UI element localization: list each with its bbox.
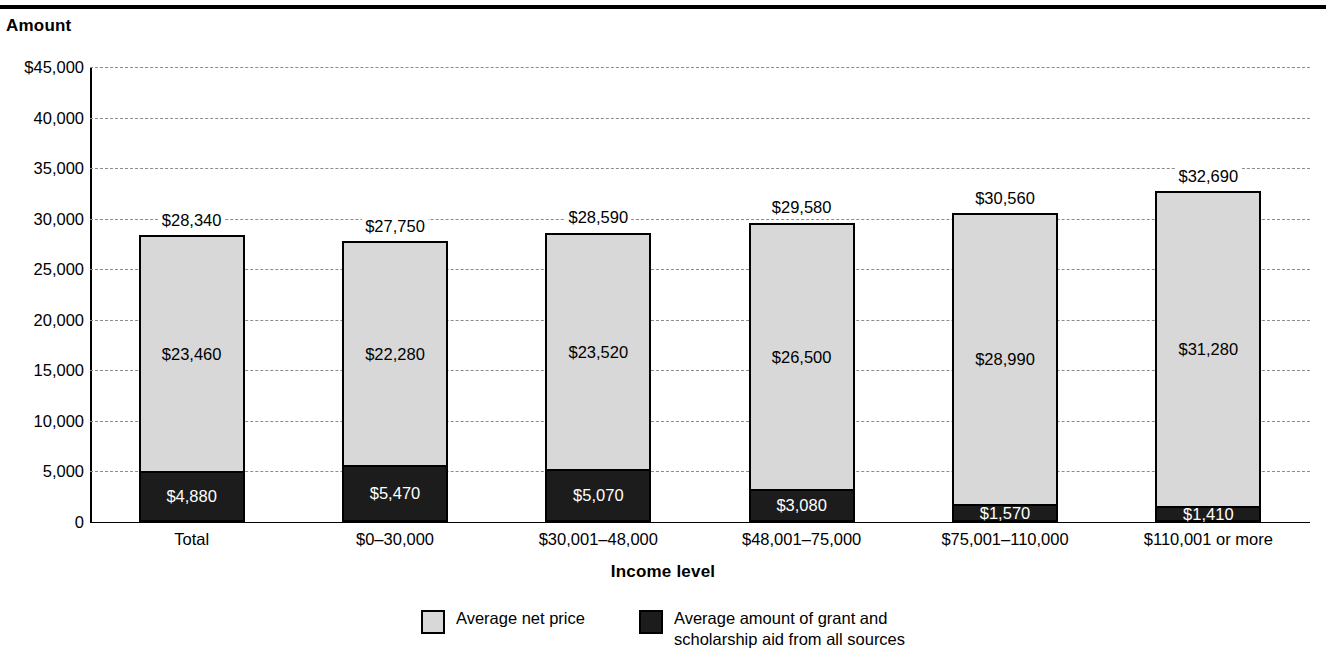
stacked-bar[interactable]: $23,460$4,880 — [139, 235, 245, 522]
gridline — [90, 67, 1310, 68]
stacked-bar[interactable]: $22,280$5,470 — [342, 241, 448, 522]
legend-label: Average net price — [456, 608, 585, 629]
gridline — [90, 269, 1310, 270]
bar-total-label: $29,580 — [769, 199, 835, 216]
stacked-bar[interactable]: $28,990$1,570 — [952, 213, 1058, 522]
x-axis-tick-labels: Total$0–30,000$30,001–48,000$48,001–75,0… — [90, 530, 1310, 558]
x-axis-baseline — [90, 522, 1310, 523]
bar-segment-grant-aid[interactable]: $4,880 — [141, 471, 243, 520]
bar-total-label: $27,750 — [362, 218, 428, 235]
legend-swatch-net-icon — [421, 610, 445, 634]
x-axis-tick-label: Total — [174, 530, 209, 549]
bar-value-label-net-price: $28,990 — [975, 351, 1035, 368]
gridline — [90, 471, 1310, 472]
y-axis-tick-label: 40,000 — [2, 108, 84, 127]
legend-label: Average amount of grant and scholarship … — [674, 608, 905, 649]
bar-total-label: $30,560 — [972, 190, 1038, 207]
bar-value-label-grant-aid: $5,470 — [370, 485, 420, 502]
gridline — [90, 219, 1310, 220]
x-axis-title: Income level — [0, 562, 1326, 582]
bar-value-label-net-price: $31,280 — [1179, 341, 1239, 358]
bar-segment-grant-aid[interactable]: $1,570 — [954, 504, 1056, 520]
bar-total-label: $32,690 — [1176, 168, 1242, 185]
legend-swatch-aid-icon — [639, 610, 663, 634]
y-axis-tick-label: 5,000 — [2, 462, 84, 481]
bar-value-label-net-price: $22,280 — [365, 346, 425, 363]
bar-chart: $45,00040,00035,00030,00025,00020,00015,… — [0, 0, 1326, 670]
x-axis-tick-label: $75,001–110,000 — [941, 530, 1068, 549]
y-axis-tick-labels: $45,00040,00035,00030,00025,00020,00015,… — [0, 67, 84, 522]
gridline — [90, 320, 1310, 321]
y-axis-tick-label: 35,000 — [2, 159, 84, 178]
y-axis-tick-label: 25,000 — [2, 260, 84, 279]
x-axis-tick-label: $0–30,000 — [356, 530, 434, 549]
bar-segment-grant-aid[interactable]: $3,080 — [751, 489, 853, 520]
bar-value-label-grant-aid: $1,570 — [980, 505, 1030, 522]
legend-item-net[interactable]: Average net price — [421, 608, 585, 634]
stacked-bar[interactable]: $23,520$5,070 — [545, 233, 651, 522]
bar-segment-grant-aid[interactable]: $5,070 — [547, 469, 649, 520]
stacked-bar[interactable]: $26,500$3,080 — [749, 223, 855, 522]
bar-total-label: $28,590 — [566, 209, 632, 226]
bar-segment-net-price[interactable]: $28,990 — [954, 215, 1056, 504]
gridline — [90, 370, 1310, 371]
gridline — [90, 421, 1310, 422]
y-axis-tick-label: 20,000 — [2, 310, 84, 329]
gridline — [90, 168, 1310, 169]
gridline — [90, 118, 1310, 119]
y-axis-tick-label: 10,000 — [2, 411, 84, 430]
bar-segment-net-price[interactable]: $23,520 — [547, 235, 649, 470]
bar-segment-net-price[interactable]: $23,460 — [141, 237, 243, 471]
bar-value-label-grant-aid: $5,070 — [573, 487, 623, 504]
plot-area: $23,460$4,880$28,340$22,280$5,470$27,750… — [90, 67, 1310, 522]
y-axis-tick-label: $45,000 — [2, 58, 84, 77]
bar-value-label-net-price: $23,460 — [162, 346, 222, 363]
x-axis-tick-label: $110,001 or more — [1144, 530, 1273, 549]
bar-segment-net-price[interactable]: $31,280 — [1157, 193, 1259, 505]
stacked-bar[interactable]: $31,280$1,410 — [1155, 191, 1261, 522]
x-axis-tick-label: $48,001–75,000 — [742, 530, 861, 549]
bar-value-label-grant-aid: $1,410 — [1183, 506, 1233, 523]
bar-value-label-net-price: $26,500 — [772, 349, 832, 366]
bar-segment-grant-aid[interactable]: $5,470 — [344, 465, 446, 520]
bar-segment-net-price[interactable]: $26,500 — [751, 225, 853, 489]
bar-segment-grant-aid[interactable]: $1,410 — [1157, 506, 1259, 520]
bar-value-label-grant-aid: $4,880 — [166, 488, 216, 505]
chart-legend: Average net priceAverage amount of grant… — [0, 608, 1326, 649]
bar-value-label-grant-aid: $3,080 — [776, 497, 826, 514]
bar-total-label: $28,340 — [159, 212, 225, 229]
y-axis-tick-label: 30,000 — [2, 209, 84, 228]
legend-item-aid[interactable]: Average amount of grant and scholarship … — [639, 608, 905, 649]
y-axis-tick-label: 0 — [2, 513, 84, 532]
y-axis-tick-label: 15,000 — [2, 361, 84, 380]
bar-segment-net-price[interactable]: $22,280 — [344, 243, 446, 465]
x-axis-tick-label: $30,001–48,000 — [539, 530, 658, 549]
bar-value-label-net-price: $23,520 — [569, 344, 629, 361]
